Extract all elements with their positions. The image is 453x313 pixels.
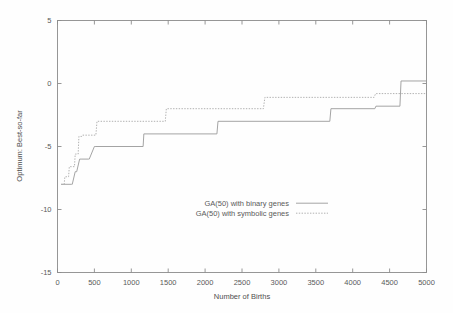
chart-figure: 0500100015002000250030003500400045005000… xyxy=(0,0,453,313)
x-tick-label: 0 xyxy=(55,278,59,287)
x-axis-tick-labels: 0500100015002000250030003500400045005000 xyxy=(55,278,434,287)
y-axis-title: Optimum: Best-so-far xyxy=(15,110,24,182)
chart-legend: GA(50) with binary genes GA(50) with sym… xyxy=(196,199,328,218)
y-tick-label: -5 xyxy=(45,142,52,151)
x-tick-label: 4000 xyxy=(344,278,361,287)
y-tick-label: -15 xyxy=(41,268,52,277)
x-tick-label: 500 xyxy=(88,278,101,287)
y-tick-label: -10 xyxy=(41,205,52,214)
y-tick-label: 5 xyxy=(47,16,51,25)
legend-label-1: GA(50) with symbolic genes xyxy=(196,209,290,218)
data-series-group xyxy=(61,81,426,184)
x-tick-label: 2500 xyxy=(234,278,251,287)
series-line-symbolic xyxy=(61,94,426,185)
x-tick-label: 5000 xyxy=(418,278,435,287)
y-axis-tick-labels: 50-5-10-15 xyxy=(41,16,52,277)
series-line-binary xyxy=(61,81,426,184)
x-tick-label: 3000 xyxy=(271,278,288,287)
x-tick-label: 4500 xyxy=(381,278,398,287)
x-tick-label: 2000 xyxy=(197,278,214,287)
x-axis-title: Number of Births xyxy=(214,292,271,301)
x-tick-label: 1000 xyxy=(123,278,140,287)
x-tick-label: 1500 xyxy=(160,278,177,287)
x-tick-label: 3500 xyxy=(307,278,324,287)
y-tick-label: 0 xyxy=(47,79,51,88)
legend-label-0: GA(50) with binary genes xyxy=(204,199,289,208)
plot-canvas: 0500100015002000250030003500400045005000… xyxy=(0,0,453,313)
